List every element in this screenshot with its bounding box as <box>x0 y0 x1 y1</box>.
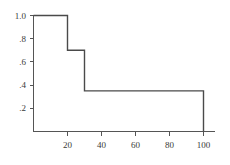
y-tick-label: .4 <box>19 80 26 90</box>
survival-step-curve <box>34 16 204 132</box>
x-tick-marks <box>68 132 204 136</box>
y-tick-label: .2 <box>19 103 26 113</box>
y-tick-marks <box>30 16 34 109</box>
y-tick-label: .6 <box>19 57 26 67</box>
step-plot: 1.0 .8 .6 .4 .2 20 40 60 80 100 <box>0 0 230 165</box>
x-tick-label: 100 <box>197 140 211 150</box>
y-tick-label: 1.0 <box>15 11 27 21</box>
x-tick-label: 20 <box>63 140 73 150</box>
y-tick-labels: 1.0 .8 .6 .4 .2 <box>15 11 27 114</box>
x-tick-labels: 20 40 60 80 100 <box>63 140 211 150</box>
y-tick-label: .8 <box>19 34 26 44</box>
chart-figure: 1.0 .8 .6 .4 .2 20 40 60 80 100 <box>0 0 230 165</box>
x-tick-label: 80 <box>165 140 175 150</box>
x-tick-label: 60 <box>131 140 141 150</box>
x-tick-label: 40 <box>97 140 107 150</box>
